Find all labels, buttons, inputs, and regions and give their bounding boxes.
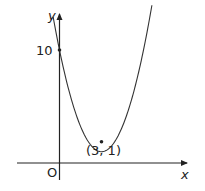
y-intercept-label: 10 <box>36 43 53 58</box>
y-axis-label: y <box>47 8 56 23</box>
origin-label: O <box>47 165 57 180</box>
x-axis-label: x <box>180 167 189 182</box>
y-intercept-point <box>58 48 62 52</box>
parabola-curve <box>53 5 152 151</box>
vertex-label: (3, 1) <box>86 143 121 158</box>
parabola-graph: y x O 10 (3, 1) <box>0 0 205 191</box>
